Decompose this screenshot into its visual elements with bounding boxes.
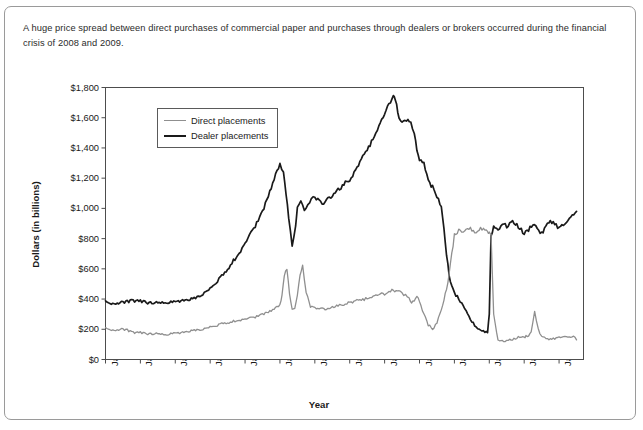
x-axis-tick-marks: [106, 360, 560, 364]
legend-item-dealer-placements: Dealer placements: [164, 128, 269, 143]
legend-swatch-direct-icon: [164, 120, 186, 121]
legend-label-direct: Direct placements: [191, 116, 265, 126]
line-chart-plot: [19, 69, 623, 413]
chart-legend: Direct placements Dealer placements: [157, 108, 278, 148]
legend-swatch-dealer-icon: [164, 135, 186, 137]
chart-area: Dollars (in billions) Year $0$200$400$60…: [19, 69, 623, 413]
legend-item-direct-placements: Direct placements: [164, 113, 269, 128]
figure-caption: A huge price spread between direct purch…: [23, 21, 615, 51]
legend-label-dealer: Dealer placements: [191, 131, 269, 141]
figure-frame: A huge price spread between direct purch…: [4, 6, 636, 420]
y-axis-tick-marks: [102, 88, 106, 360]
